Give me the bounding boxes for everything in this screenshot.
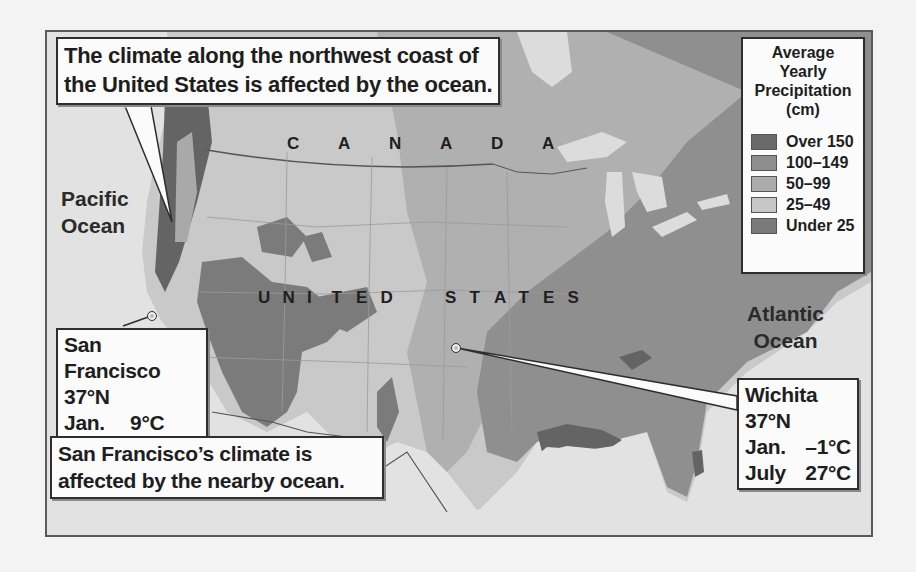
city-latitude: 37°N [64, 384, 200, 410]
legend-item-over-150: Over 150 [751, 131, 863, 152]
wichita-info-box: Wichita 37°N Jan. –1°C July 27°C [737, 378, 859, 490]
nw-callout-pointer [125, 106, 172, 222]
legend-item-100-149: 100–149 [751, 152, 863, 173]
jan-temp-row: Jan. 9°C [64, 410, 200, 436]
city-latitude: 37°N [745, 408, 851, 434]
legend-items: Over 150 100–149 50–99 25–49 Under 25 [743, 131, 863, 236]
swatch [751, 218, 777, 234]
precipitation-map: The climate along the northwest coast of… [45, 30, 873, 537]
canada-label: C A N A D A [287, 134, 593, 154]
swatch [751, 176, 777, 192]
july-temp-row: July 27°C [745, 460, 851, 486]
jan-temp-row: Jan. –1°C [745, 434, 851, 460]
callout-line-1: The climate along the northwest coast of [64, 41, 492, 70]
legend-item-under-25: Under 25 [751, 215, 863, 236]
swatch [751, 134, 777, 150]
legend-item-50-99: 50–99 [751, 173, 863, 194]
swatch [751, 155, 777, 171]
swatch [751, 197, 777, 213]
atlantic-ocean-label: Atlantic Ocean [747, 300, 824, 354]
pacific-ocean-label: Pacific Ocean [61, 185, 129, 239]
city-name: San Francisco [64, 332, 200, 384]
northwest-coast-callout: The climate along the northwest coast of… [56, 37, 500, 105]
san-francisco-marker[interactable] [147, 311, 157, 321]
legend-item-25-49: 25–49 [751, 194, 863, 215]
wichita-pointer [457, 348, 737, 410]
callout-line-2: the United States is affected by the oce… [64, 70, 492, 99]
united-states-label: U N I T E D S T A T E S [258, 288, 592, 308]
city-name: Wichita [745, 382, 851, 408]
legend-title: Average Yearly Precipitation (cm) [743, 43, 863, 119]
precipitation-legend: Average Yearly Precipitation (cm) Over 1… [741, 37, 865, 274]
san-francisco-note: San Francisco’s climate is affected by t… [50, 436, 384, 499]
wichita-marker[interactable] [451, 343, 461, 353]
